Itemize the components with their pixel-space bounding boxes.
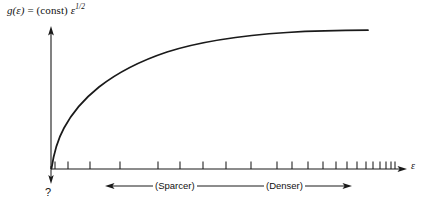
- figure-title: g(ε) = (const) ε1/2: [7, 4, 85, 16]
- sparcer-region-label: (Sparcer): [153, 180, 197, 191]
- origin-question-mark: ?: [45, 186, 51, 198]
- figure-title-exponent: 1/2: [75, 2, 85, 11]
- density-of-states-figure: g(ε) = (const) ε1/2: [0, 0, 429, 206]
- figure-title-argument: (ε): [13, 4, 25, 16]
- figure-title-equals: = (const): [25, 4, 71, 16]
- figure-canvas: [0, 0, 429, 206]
- denser-region-label: (Denser): [264, 180, 305, 191]
- density-range-arrow: [105, 183, 352, 189]
- x-axis: [51, 166, 407, 172]
- sqrt-curve: [52, 30, 369, 168]
- energy-level-ticks: [55, 162, 395, 170]
- x-axis-label: ε: [411, 160, 415, 171]
- y-axis: [48, 26, 54, 169]
